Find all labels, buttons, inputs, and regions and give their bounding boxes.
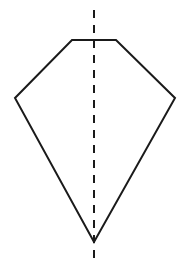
kite-diagram	[0, 0, 184, 277]
